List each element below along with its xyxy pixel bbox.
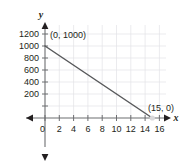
x-tick-label-6: 6 bbox=[85, 124, 90, 134]
y-tick-label-800: 800 bbox=[24, 53, 39, 63]
x-tick-label-14: 14 bbox=[140, 124, 150, 134]
x-axis-label: x bbox=[173, 112, 179, 123]
x-tick-label-0: 0 bbox=[40, 124, 45, 134]
y-tick-label-1200: 1200 bbox=[19, 29, 39, 39]
chart-screenshot: 1200 1000 800 600 400 200 0 2 4 6 8 10 1… bbox=[0, 0, 189, 166]
y-axis bbox=[42, 22, 49, 161]
x-tick-label-8: 8 bbox=[100, 124, 105, 134]
x-tick-label-4: 4 bbox=[71, 124, 76, 134]
y-tick-label-200: 200 bbox=[24, 89, 39, 99]
annotation-point-15-0: (15, 0) bbox=[148, 103, 174, 113]
x-tick-label-12: 12 bbox=[126, 124, 136, 134]
x-tick-label-16: 16 bbox=[154, 124, 164, 134]
endpoint-marker-15-0 bbox=[150, 115, 155, 120]
y-tick-label-600: 600 bbox=[24, 65, 39, 75]
y-tick-labels: 1200 1000 800 600 400 200 bbox=[19, 29, 39, 99]
annotation-point-0-1000: (0, 1000) bbox=[50, 30, 86, 40]
data-series-line bbox=[45, 46, 155, 121]
y-tick-label-400: 400 bbox=[24, 77, 39, 87]
x-tick-label-2: 2 bbox=[57, 124, 62, 134]
y-tick-label-1000: 1000 bbox=[19, 41, 39, 51]
x-tick-label-10: 10 bbox=[111, 124, 121, 134]
x-tick-labels: 0 2 4 6 8 10 12 14 16 bbox=[40, 124, 164, 134]
line-chart: 1200 1000 800 600 400 200 0 2 4 6 8 10 1… bbox=[0, 0, 189, 166]
y-axis-label: y bbox=[38, 9, 44, 20]
horizontal-gridlines bbox=[45, 34, 166, 106]
